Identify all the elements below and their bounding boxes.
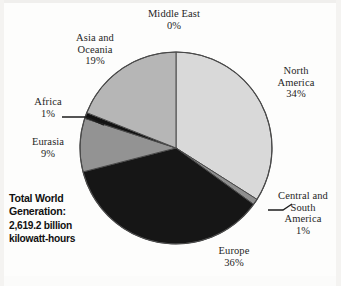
slice-label-middle-east-name: Middle East bbox=[148, 8, 200, 19]
slice-label-eurasia: Eurasia 9% bbox=[17, 136, 79, 159]
slice-label-asia-oceania-line2: Oceania bbox=[77, 44, 112, 55]
slice-label-north-america-line1: North bbox=[284, 65, 309, 76]
total-generation-line3: 2,619.2 billion bbox=[9, 219, 101, 232]
slice-label-central-south-line2: South bbox=[290, 202, 315, 213]
slice-label-eurasia-pct: 9% bbox=[17, 148, 79, 160]
pie-slice-group bbox=[80, 52, 272, 244]
slice-label-central-south-america: Central and South America 1% bbox=[265, 190, 341, 236]
total-generation-line2: Generation: bbox=[9, 205, 101, 218]
slice-label-africa-name: Africa bbox=[34, 96, 61, 107]
slice-label-europe-pct: 36% bbox=[195, 257, 273, 269]
slice-label-asia-oceania-line1: Asia and bbox=[76, 32, 114, 43]
slice-label-central-south-line1: Central and bbox=[278, 190, 328, 201]
slice-label-north-america-pct: 34% bbox=[258, 88, 334, 100]
slice-label-asia-oceania: Asia and Oceania 19% bbox=[56, 32, 134, 67]
slice-label-central-south-line3: America bbox=[285, 213, 322, 224]
slice-label-north-america: North America 34% bbox=[258, 65, 334, 100]
slice-label-africa: Africa 1% bbox=[20, 96, 76, 119]
total-generation-block: Total World Generation: 2,619.2 billion … bbox=[9, 192, 101, 246]
total-generation-line4: kilowatt-hours bbox=[9, 232, 101, 245]
slice-label-europe: Europe 36% bbox=[195, 245, 273, 268]
slice-label-north-america-line2: America bbox=[278, 77, 315, 88]
slice-label-asia-oceania-pct: 19% bbox=[56, 55, 134, 67]
slice-label-africa-pct: 1% bbox=[20, 108, 76, 120]
slice-label-middle-east-pct: 0% bbox=[131, 20, 217, 32]
slice-label-middle-east: Middle East 0% bbox=[131, 8, 217, 31]
slice-label-central-south-pct: 1% bbox=[265, 225, 341, 237]
slice-label-europe-name: Europe bbox=[219, 245, 250, 256]
total-generation-line1: Total World bbox=[9, 192, 101, 205]
slice-label-eurasia-name: Eurasia bbox=[32, 136, 64, 147]
pie-chart-figure: Middle East 0% Asia and Oceania 19% Nort… bbox=[0, 0, 341, 286]
